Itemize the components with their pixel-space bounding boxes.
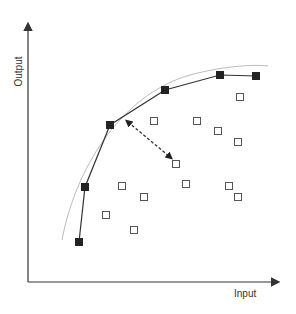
inefficient-point: [131, 227, 138, 234]
diagram-canvas: [0, 0, 296, 314]
distance-arrow: [128, 122, 170, 157]
inefficient-point: [119, 183, 126, 190]
inefficient-point: [235, 194, 242, 201]
x-axis-label: Input: [234, 288, 256, 299]
frontier-point: [81, 183, 89, 191]
y-axis-label: Output: [13, 52, 24, 92]
inefficient-points: [103, 94, 244, 234]
inefficient-point: [103, 212, 110, 219]
frontier-point: [252, 72, 260, 80]
inefficient-point: [183, 181, 190, 188]
inefficient-point: [141, 194, 148, 201]
inefficient-point: [237, 94, 244, 101]
inefficient-point: [194, 118, 201, 125]
frontier-point: [161, 86, 169, 94]
inefficient-point: [235, 139, 242, 146]
frontier-point: [216, 71, 224, 79]
frontier-point: [106, 121, 114, 129]
inefficient-point: [226, 183, 233, 190]
inefficient-point: [151, 118, 158, 125]
inefficient-point: [173, 161, 180, 168]
frontier-points: [75, 71, 260, 246]
frontier-point: [75, 238, 83, 246]
inefficient-point: [215, 128, 222, 135]
